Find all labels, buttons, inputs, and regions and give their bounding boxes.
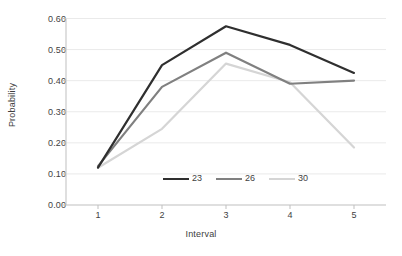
line-chart: Probability 0.000.100.200.300.400.500.60… — [0, 0, 402, 256]
x-axis-tick-label: 4 — [287, 210, 292, 220]
plot-area — [0, 0, 402, 256]
legend-item-26[interactable]: 26 — [216, 174, 255, 183]
x-axis-tick-label: 3 — [223, 210, 228, 220]
legend-item-23[interactable]: 23 — [163, 174, 202, 183]
chart-legend: 232630 — [163, 174, 308, 183]
series-line-23 — [98, 26, 354, 167]
x-axis-tick-label: 1 — [95, 210, 100, 220]
x-axis-tick-label: 5 — [351, 210, 356, 220]
legend-swatch-icon — [269, 178, 295, 180]
x-axis-tick-label: 2 — [159, 210, 164, 220]
legend-label: 23 — [192, 174, 202, 183]
series-line-30 — [98, 64, 354, 168]
legend-label: 26 — [245, 174, 255, 183]
legend-swatch-icon — [163, 178, 189, 180]
x-axis-title: Interval — [0, 229, 402, 239]
legend-item-30[interactable]: 30 — [269, 174, 308, 183]
legend-label: 30 — [298, 174, 308, 183]
x-axis-title-text: Interval — [185, 229, 216, 239]
legend-swatch-icon — [216, 178, 242, 180]
